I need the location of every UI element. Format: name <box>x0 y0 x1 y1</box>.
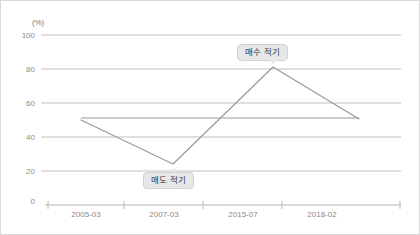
annotation-sell-timing: 매도 적기 <box>143 172 194 189</box>
x-tick-label-3: 2018-02 <box>282 210 362 219</box>
annotation-buy-timing: 매수 적기 <box>237 44 288 61</box>
annotation-buy-timing-tail <box>269 60 277 64</box>
x-tick-label-1: 2007-03 <box>124 210 204 219</box>
annotation-sell-timing-tail <box>170 168 178 172</box>
gridlines <box>41 35 401 171</box>
plot-area <box>1 1 420 235</box>
x-axis <box>45 201 401 209</box>
chart-container: (%) 100 80 60 40 20 0 <box>0 0 420 235</box>
data-line-series <box>81 67 359 164</box>
x-tick-label-0: 2005-03 <box>46 210 126 219</box>
x-tick-label-2: 2015-07 <box>203 210 283 219</box>
